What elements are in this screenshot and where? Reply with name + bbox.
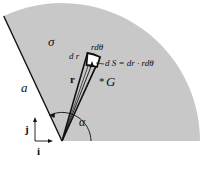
side-a-label: a [21, 81, 28, 94]
r-label: r [70, 74, 75, 85]
j-arrowhead [33, 117, 37, 122]
dr-label: d r [69, 52, 79, 61]
sigma-label: σ [48, 35, 54, 48]
rdtheta-label: rdθ [91, 43, 103, 52]
j-label: j [25, 124, 29, 135]
circular-sector [4, 3, 200, 141]
sector-diagram: σ a d r rdθ d S = dr · rdθ r * G α j i [0, 0, 205, 170]
alpha-label: α [79, 116, 85, 128]
i-label: i [37, 146, 40, 157]
G-label: G [106, 75, 115, 88]
i-arrowhead [48, 139, 53, 143]
G-marker: * [99, 76, 105, 87]
dS-formula-label: d S = dr · rdθ [105, 59, 154, 68]
